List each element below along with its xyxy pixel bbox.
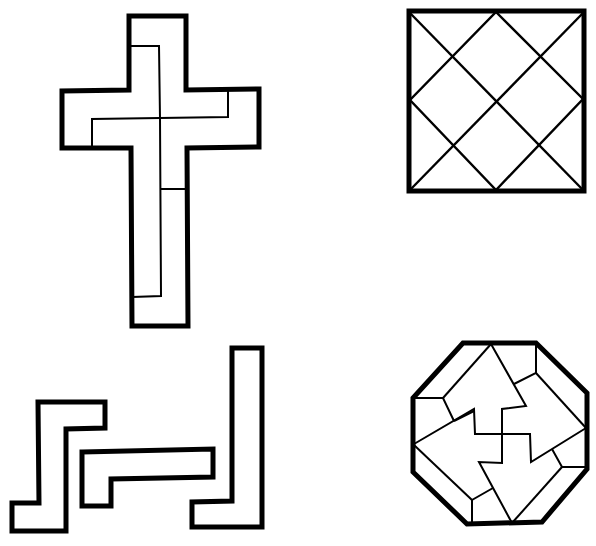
dissection-figure — [0, 0, 596, 546]
arrow-left — [414, 409, 586, 462]
cross-figure — [62, 16, 259, 326]
octagon-line-tr — [514, 344, 536, 384]
octagon-line-tl — [413, 398, 454, 421]
octagon-line-tl-diag — [443, 344, 491, 398]
octagon-line-bl — [472, 488, 493, 523]
octagon-line-br-diag — [512, 467, 562, 523]
z-piece — [12, 402, 105, 531]
step-piece — [82, 449, 213, 506]
octagon-line-br — [552, 449, 586, 467]
octagon-figure — [413, 343, 587, 524]
octagon-line-bl-diag — [414, 445, 472, 500]
arrow-left-top — [454, 411, 474, 421]
polyomino-pieces — [12, 348, 262, 531]
l-piece — [192, 348, 262, 527]
cross-inner-line-top — [131, 46, 161, 297]
square-figure — [409, 11, 584, 191]
